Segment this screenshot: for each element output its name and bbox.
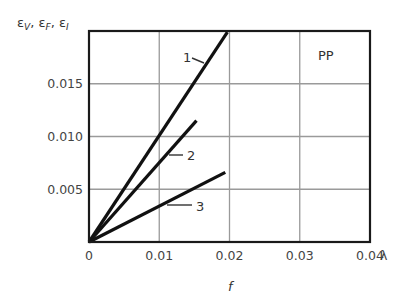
series-label-1: 1 (183, 50, 191, 65)
series-label-2: 2 (187, 148, 195, 163)
series-line-3 (89, 172, 225, 242)
series-label-3: 3 (196, 199, 204, 214)
y-axis-label: εV, εF, εI (17, 15, 69, 32)
leader-line-1 (192, 58, 204, 63)
x-tick-label: 0 (85, 248, 93, 263)
x-tick-label: 0.02 (216, 248, 244, 263)
x-tick-label: 0.03 (286, 248, 314, 263)
x-axis-label: f (228, 279, 235, 294)
y-tick-label: 0.015 (47, 76, 83, 91)
chart-canvas: 00.010.020.030.04 0.0050.0100.015 123 PP… (0, 0, 401, 306)
y-tick-label: 0.005 (47, 182, 83, 197)
y-tick-labels: 0.0050.0100.015 (47, 76, 83, 197)
material-annotation: PP (318, 48, 334, 63)
series-line-2 (89, 121, 196, 242)
y-tick-label: 0.010 (47, 129, 83, 144)
x-tick-label: 0.01 (145, 248, 173, 263)
x-axis-symbol: λ (380, 248, 388, 263)
x-tick-labels: 00.010.020.030.04 (85, 248, 384, 263)
